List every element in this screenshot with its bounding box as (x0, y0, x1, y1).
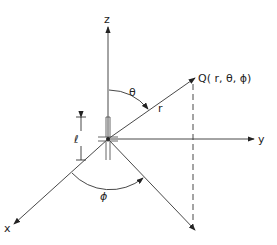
projection-line (108, 139, 195, 230)
radius-vector (108, 78, 195, 139)
point-q-label: Q( r, θ, ϕ) (198, 72, 251, 85)
phi-arc (72, 173, 143, 190)
origin-point (106, 137, 110, 141)
x-axis (14, 139, 108, 224)
z-axis-label: z (104, 13, 110, 26)
theta-label: θ (129, 86, 136, 99)
length-label: ℓ (73, 133, 79, 146)
y-axis-label: y (258, 133, 265, 146)
x-axis-label: x (4, 222, 11, 235)
radius-label: r (158, 102, 163, 115)
phi-label: ϕ (100, 190, 107, 203)
spherical-coordinate-diagram: z y x Q( r, θ, ϕ) r θ ϕ ℓ (0, 0, 277, 245)
